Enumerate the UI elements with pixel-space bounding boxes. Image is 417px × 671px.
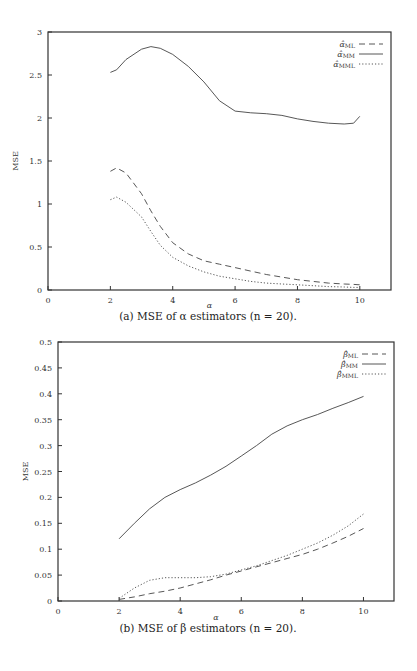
- y-tick-label: 0.5: [29, 243, 42, 252]
- x-tick-label: 6: [233, 296, 238, 305]
- y-tick-label: 0.05: [34, 571, 52, 580]
- y-tick-label: 2.5: [29, 71, 42, 80]
- y-tick-label: 1.5: [29, 157, 42, 166]
- x-axis-label: α: [213, 613, 219, 622]
- y-tick-label: 0.1: [39, 545, 52, 554]
- x-tick-label: 2: [108, 296, 113, 305]
- series-line-solid: [110, 47, 359, 124]
- y-tick-label: 0.15: [34, 519, 52, 528]
- y-axis-label: MSE: [21, 462, 30, 482]
- x-tick-label: 8: [300, 607, 305, 616]
- legend-label: α̂MM: [337, 50, 355, 59]
- x-axis-label: α: [207, 301, 213, 310]
- y-tick-label: 0.25: [34, 468, 52, 477]
- chart-caption: (b) MSE of β estimators (n = 20).: [120, 622, 297, 634]
- y-tick-label: 0.35: [34, 416, 52, 425]
- x-tick-label: 6: [239, 607, 244, 616]
- series-line-solid: [119, 396, 363, 538]
- y-tick-label: 0.4: [39, 390, 52, 399]
- x-tick-label: 2: [117, 607, 122, 616]
- x-tick-label: 10: [355, 296, 365, 305]
- x-tick-label: 8: [295, 296, 300, 305]
- y-tick-label: 0: [37, 286, 42, 295]
- x-tick-label: 4: [178, 607, 183, 616]
- legend-label: α̂ML: [339, 40, 355, 49]
- y-tick-label: 0.2: [39, 493, 52, 502]
- series-line-dashed: [110, 168, 359, 285]
- y-tick-label: 3: [37, 28, 42, 37]
- x-tick-label: 0: [55, 607, 60, 616]
- figure: 00.511.522.530246810MSEα(a) MSE of α est…: [0, 0, 417, 671]
- legend-label: β̂MM: [340, 360, 358, 369]
- plot-frame: [58, 342, 394, 601]
- chart-caption: (a) MSE of α estimators (n = 20).: [119, 310, 297, 322]
- y-tick-label: 0: [47, 597, 52, 606]
- series-line-dashed: [119, 529, 363, 600]
- y-axis-label: MSE: [11, 151, 20, 171]
- legend-label: α̂MML: [333, 60, 355, 69]
- series-line-dotted: [119, 514, 363, 598]
- y-tick-label: 0.3: [39, 442, 52, 451]
- x-tick-label: 0: [45, 296, 50, 305]
- x-tick-label: 4: [170, 296, 175, 305]
- legend-label: β̂MML: [336, 370, 358, 379]
- y-tick-label: 2: [37, 114, 42, 123]
- legend-label: β̂ML: [342, 350, 358, 359]
- x-tick-label: 10: [358, 607, 368, 616]
- y-tick-label: 0.5: [39, 338, 52, 347]
- plot-frame: [48, 32, 391, 290]
- chart-b-beta-mse: 00.050.10.150.20.250.30.350.40.450.50246…: [21, 338, 394, 634]
- y-tick-label: 0.45: [34, 364, 52, 373]
- series-line-dotted: [110, 197, 359, 287]
- chart-a-alpha-mse: 00.511.522.530246810MSEα(a) MSE of α est…: [11, 28, 391, 322]
- y-tick-label: 1: [37, 200, 42, 209]
